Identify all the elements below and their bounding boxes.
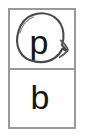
letter-glyph-p: p: [30, 25, 49, 59]
letter-choice-card: p b: [0, 0, 85, 140]
choice-cell-p[interactable]: p: [10, 10, 74, 70]
choice-cell-b[interactable]: b: [10, 70, 74, 127]
letter-glyph-b: b: [31, 80, 50, 114]
card-frame: p b: [8, 8, 76, 129]
